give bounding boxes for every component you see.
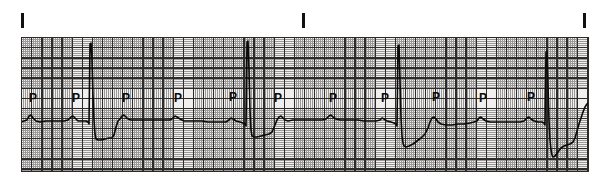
p-wave-label-2: P [72,92,80,104]
p-wave-label-6: P [274,92,282,104]
ecg-waveform [21,37,589,172]
tick-mark-2 [302,13,305,28]
ecg-figure: PPPPPPPPPPP [0,0,603,191]
tick-mark-3 [583,13,586,28]
p-wave-label-3: P [122,92,130,104]
p-wave-label-11: P [527,91,535,103]
ecg-grid-paper [21,37,589,172]
ecg-trace-path [21,41,589,157]
p-wave-label-8: P [381,92,389,104]
p-wave-label-4: P [174,92,182,104]
p-wave-label-10: P [479,92,487,104]
p-wave-label-5: P [229,91,237,103]
tick-mark-1 [21,13,24,28]
p-wave-label-7: P [329,92,337,104]
p-wave-label-1: P [29,92,37,104]
p-wave-label-9: P [432,91,440,103]
